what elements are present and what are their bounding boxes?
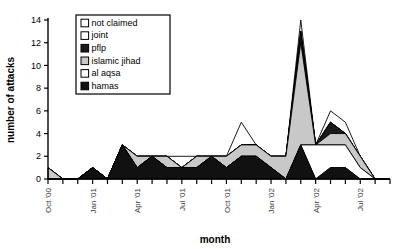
- x-tick-label: Apr '01: [133, 187, 142, 213]
- y-tick-label: 14: [31, 15, 41, 25]
- chart-background: [0, 0, 413, 249]
- swatch-islamic-jihad-icon: [81, 57, 89, 65]
- legend-item-label: al aqsa: [92, 68, 121, 78]
- legend-item-label: islamic jihad: [92, 56, 141, 66]
- swatch-al-aqsa-icon: [81, 70, 89, 78]
- x-tick-label: Jul '02: [356, 187, 365, 210]
- swatch-pflp-icon: [81, 44, 89, 52]
- legend-item-hamas[interactable]: hamas: [81, 81, 119, 91]
- legend-item-pflp[interactable]: pflp: [81, 43, 106, 53]
- y-tick-label: 10: [31, 61, 41, 71]
- y-tick-label: 4: [36, 129, 41, 139]
- x-tick-label: Oct '01: [223, 187, 232, 213]
- x-tick-label: Jan '02: [267, 187, 276, 213]
- chart-svg: 02468101214 Oct '00Jan '01Apr '01Jul '01…: [0, 0, 413, 249]
- legend-item-label: pflp: [92, 43, 107, 53]
- legend-item-joint[interactable]: joint: [81, 30, 109, 40]
- legend-item-label: hamas: [92, 81, 120, 91]
- chart-figure: 02468101214 Oct '00Jan '01Apr '01Jul '01…: [0, 0, 413, 249]
- legend-box[interactable]: not claimedjointpflpislamic jihadal aqsa…: [76, 15, 170, 94]
- legend-item-al-aqsa[interactable]: al aqsa: [81, 68, 121, 78]
- y-tick-label: 2: [36, 151, 41, 161]
- y-tick-label: 0: [36, 174, 41, 184]
- x-tick-label: Apr '02: [312, 187, 321, 213]
- x-tick-label: Oct '00: [44, 187, 53, 213]
- x-axis-label: month: [200, 234, 231, 245]
- swatch-hamas-icon: [81, 82, 89, 90]
- swatch-joint-icon: [81, 32, 89, 40]
- y-tick-label: 6: [36, 106, 41, 116]
- legend-item-label: not claimed: [92, 18, 138, 28]
- y-tick-label: 12: [31, 38, 41, 48]
- swatch-not-claimed-icon: [81, 19, 89, 27]
- legend-item-label: joint: [91, 30, 109, 40]
- y-axis-label: number of attacks: [5, 56, 16, 143]
- y-tick-label: 8: [36, 83, 41, 93]
- x-tick-label: Jul '01: [178, 187, 187, 210]
- x-tick-label: Jan '01: [89, 187, 98, 213]
